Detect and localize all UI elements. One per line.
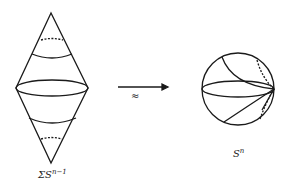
sphere	[202, 53, 274, 125]
suspension-label-base: ΣS	[38, 169, 52, 180]
diagram: ≈ ΣSn−1 Sn	[0, 0, 292, 190]
suspension-label-sup: n−1	[52, 168, 67, 176]
sphere-label-base: S	[233, 148, 240, 159]
suspension-label: ΣSn−1	[38, 168, 67, 180]
sphere-label-sup: n	[240, 147, 245, 155]
homeomorphic-symbol: ≈	[131, 90, 139, 101]
suspension-double-cone	[16, 13, 88, 163]
sphere-label: Sn	[233, 147, 244, 159]
arrow	[118, 84, 168, 90]
diagram-figure	[0, 0, 292, 190]
